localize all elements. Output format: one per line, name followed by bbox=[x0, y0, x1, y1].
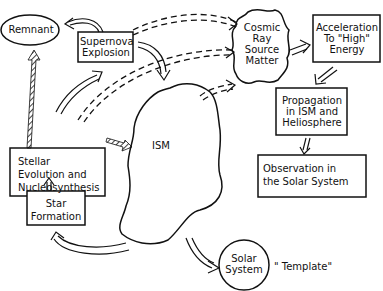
remnant-label: Remnant bbox=[8, 24, 54, 35]
solar-system-label: Solar System bbox=[220, 253, 268, 275]
stellar-label: Stellar Evolution and Nucleosynthesis bbox=[18, 155, 108, 194]
arrow-cosmic-acceleration bbox=[290, 40, 310, 55]
arrow-ism-solarsystem bbox=[186, 238, 219, 273]
star-formation-label: Star Formation bbox=[28, 197, 84, 223]
hatched-arrow-stellar-ism bbox=[106, 138, 132, 151]
supernova-label: Supernova Explosion bbox=[80, 36, 132, 58]
observation-label: Observation in the Solar System bbox=[263, 162, 365, 188]
arrow-ism-starformation bbox=[51, 232, 129, 254]
arrow-supernova-remnant bbox=[65, 18, 103, 32]
ism-label: ISM bbox=[146, 140, 176, 151]
ism-blob bbox=[120, 84, 222, 244]
arrow-propagation-observation bbox=[300, 138, 310, 154]
arrow-supernova-ism bbox=[138, 42, 170, 80]
acceleration-label: Acceleration To "High" Energy bbox=[313, 22, 381, 55]
arrow-stellar-supernova bbox=[56, 71, 102, 114]
propagation-label: Propagation in ISM and Heliosphere bbox=[277, 95, 347, 128]
hatched-arrow-stellar-remnant bbox=[27, 50, 40, 148]
cosmic-ray-label: Cosmic Ray Source Matter bbox=[238, 22, 286, 66]
arrow-acceleration-propagation bbox=[315, 67, 337, 84]
template-note: " Template" bbox=[268, 261, 338, 272]
